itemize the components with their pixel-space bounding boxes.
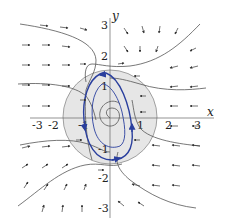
x-tick: 1 xyxy=(137,119,144,132)
y-tick: -3 xyxy=(98,202,109,215)
x-tick: -1 xyxy=(78,119,89,132)
x-tick: -2 xyxy=(48,119,59,132)
y-tick: 2 xyxy=(101,50,108,63)
y-tick: 3 xyxy=(101,19,108,32)
y-axis-label: y xyxy=(111,9,119,23)
x-tick: 2 xyxy=(165,119,172,132)
y-tick: 1 xyxy=(101,80,108,93)
x-axis-label: x xyxy=(207,105,214,119)
x-tick: 3 xyxy=(194,119,201,132)
x-tick: -3 xyxy=(32,119,43,132)
y-tick: -1 xyxy=(98,143,109,156)
y-tick: -2 xyxy=(98,172,109,185)
phase-portrait: x y -3 -2 -1 1 2 3 3 2 1 -1 -2 -3 xyxy=(0,0,226,224)
